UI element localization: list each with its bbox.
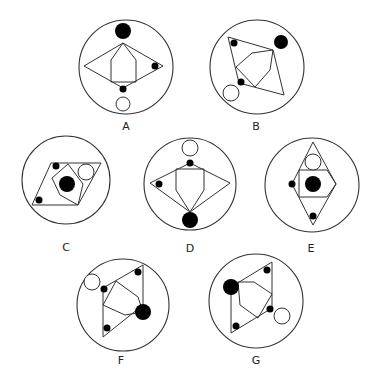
option-label: D (186, 242, 194, 255)
outer-quadrilateral (84, 43, 163, 88)
figure-option-a[interactable]: A (79, 20, 173, 133)
small-black-dot-icon (120, 86, 127, 93)
figure-option-f[interactable]: F (77, 259, 169, 367)
figure-option-e[interactable]: E (265, 138, 359, 255)
small-black-dot-icon (267, 306, 274, 313)
figure-option-g[interactable]: G (209, 254, 303, 367)
small-black-dot-icon (231, 40, 238, 47)
open-circle-icon (223, 85, 239, 101)
small-black-dot-icon (187, 160, 194, 167)
figure-option-d[interactable]: D (144, 138, 236, 255)
small-black-dot-icon (53, 163, 60, 170)
option-label: F (118, 354, 124, 367)
outer-quadrilateral (150, 163, 230, 212)
open-circle-icon (274, 308, 290, 324)
large-black-dot-icon (223, 279, 239, 295)
small-black-dot-icon (233, 323, 240, 330)
open-circle-icon (116, 97, 130, 111)
outer-circle (209, 254, 303, 348)
open-circle-icon (182, 140, 198, 156)
outer-circle (77, 259, 169, 351)
option-label: A (122, 120, 130, 133)
inner-pentagon (238, 282, 272, 318)
large-black-dot-icon (182, 212, 198, 228)
option-label: E (308, 242, 315, 255)
puzzle-canvas: ABCDEFG (0, 0, 374, 386)
small-black-dot-icon (310, 213, 317, 220)
large-black-dot-icon (274, 35, 288, 49)
small-black-dot-icon (135, 269, 142, 276)
open-circle-icon (305, 154, 321, 170)
large-black-dot-icon (115, 23, 131, 39)
large-black-dot-icon (135, 304, 151, 320)
open-circle-icon (84, 274, 100, 290)
small-black-dot-icon (238, 79, 245, 86)
small-black-dot-icon (289, 181, 296, 188)
small-black-dot-icon (156, 181, 163, 188)
open-circle-icon (78, 164, 94, 180)
inner-pentagon (176, 169, 204, 212)
option-label: C (62, 241, 70, 254)
outer-circle (210, 20, 304, 114)
large-black-dot-icon (305, 176, 321, 192)
figure-option-b[interactable]: B (210, 20, 304, 133)
small-black-dot-icon (36, 197, 43, 204)
small-black-dot-icon (104, 325, 111, 332)
small-black-dot-icon (264, 267, 271, 274)
option-label: B (252, 120, 260, 133)
figure-option-c[interactable]: C (22, 136, 110, 254)
large-black-dot-icon (59, 176, 75, 192)
small-black-dot-icon (152, 63, 159, 70)
small-black-dot-icon (101, 286, 108, 293)
option-label: G (252, 354, 261, 367)
